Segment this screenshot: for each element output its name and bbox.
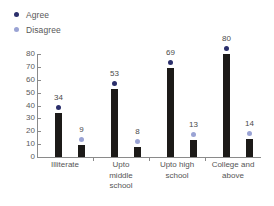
bar-disagree-1 [134,147,141,157]
legend-dot-agree [14,12,19,17]
y-axis-tick [38,157,41,158]
legend-label-agree: Agree [26,10,49,20]
marker-disagree-1 [135,139,140,144]
y-axis-tick [38,118,41,119]
bar-agree-0 [55,113,62,157]
education-opinion-bar-chart: Agree Disagree 01020304050607080 3495386… [0,0,274,206]
bar-disagree-3 [246,139,253,157]
bar-disagree-0 [78,145,85,157]
y-axis-tick-label: 80 [26,50,35,58]
value-label-disagree-1: 8 [127,128,149,136]
y-axis-tick-label: 10 [26,140,35,148]
bar-agree-3 [223,54,230,157]
value-label-disagree-3: 14 [239,120,261,128]
y-axis-tick [38,54,41,55]
value-label-disagree-0: 9 [71,126,93,134]
legend-dot-disagree [14,27,19,32]
y-axis-tick-labels: 01020304050607080 [0,54,35,157]
marker-agree-2 [168,60,173,65]
category-label-3: College and above [205,160,261,181]
y-axis-tick [38,80,41,81]
marker-disagree-2 [191,132,196,137]
marker-agree-1 [112,81,117,86]
value-label-agree-2: 69 [160,49,182,57]
y-axis-tick [38,106,41,107]
y-axis-tick-label: 50 [26,89,35,97]
marker-agree-3 [224,46,229,51]
y-axis-tick-label: 30 [26,114,35,122]
y-axis-tick [38,131,41,132]
y-axis-tick-label: 60 [26,76,35,84]
category-label-0: Illiterate [37,160,93,171]
legend-item-disagree: Disagree [14,23,134,36]
value-label-disagree-2: 13 [183,121,205,129]
y-axis-tick-label: 20 [26,127,35,135]
bar-agree-2 [167,68,174,157]
legend-label-disagree: Disagree [26,25,61,35]
y-axis-tick [38,67,41,68]
category-label-1: Upto middle school [93,160,149,192]
plot-area: 34953869138014 [37,54,261,157]
x-axis-category-labels: IlliterateUpto middle schoolUpto high sc… [37,160,261,206]
value-label-agree-0: 34 [48,94,70,102]
chart-legend: Agree Disagree [14,8,134,38]
y-axis-tick [38,144,41,145]
y-axis-tick-label: 70 [26,63,35,71]
marker-disagree-0 [79,137,84,142]
bar-agree-1 [111,89,118,157]
bar-disagree-2 [190,140,197,157]
y-axis-tick [38,93,41,94]
marker-agree-0 [56,105,61,110]
legend-item-agree: Agree [14,8,134,21]
value-label-agree-1: 53 [104,70,126,78]
marker-disagree-3 [247,131,252,136]
category-label-2: Upto high school [149,160,205,181]
value-label-agree-3: 80 [216,35,238,43]
y-axis-tick-label: 0 [31,153,35,161]
y-axis-tick-label: 40 [26,102,35,110]
